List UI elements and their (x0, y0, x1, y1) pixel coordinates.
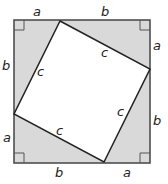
label-left-a: a (3, 130, 11, 145)
label-right-a: a (153, 38, 161, 53)
label-top-b: b (101, 4, 109, 19)
label-c-bottom-right: c (117, 104, 124, 119)
label-right-b: b (153, 113, 161, 128)
label-bottom-b: b (55, 165, 63, 180)
label-c-top-right: c (101, 45, 108, 60)
label-left-b: b (2, 58, 10, 73)
label-top-a: a (33, 4, 41, 19)
label-c-top-left: c (37, 64, 44, 79)
label-c-bottom-left: c (56, 123, 63, 138)
label-bottom-a: a (123, 165, 131, 180)
pythagorean-diagram: a b a b b a b a c c c c (0, 0, 168, 184)
